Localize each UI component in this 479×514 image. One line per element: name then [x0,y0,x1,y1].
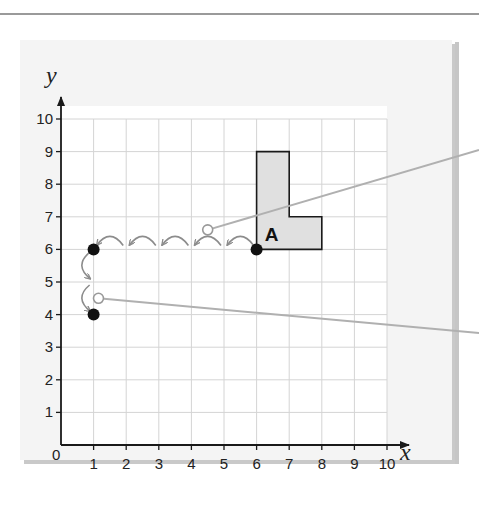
y-axis-ticks: 12345678910 [36,110,61,420]
origin-label: 0 [52,446,60,463]
y-tick-label: 2 [45,371,53,388]
plotted-point [251,243,263,255]
x-tick-label: 8 [318,455,326,472]
shape-a-label: A [265,224,279,245]
y-tick-label: 10 [36,110,53,127]
y-tick-label: 1 [45,403,53,420]
y-tick-label: 9 [45,143,53,160]
y-tick-label: 8 [45,175,53,192]
plotted-point [88,243,100,255]
x-tick-label: 9 [350,455,358,472]
y-axis-label: y [44,62,57,88]
callout-anchor-circle [203,225,213,235]
x-tick-label: 6 [252,455,260,472]
x-tick-label: 7 [285,455,293,472]
y-tick-label: 6 [45,240,53,257]
y-tick-label: 3 [45,338,53,355]
y-tick-label: 4 [45,306,53,323]
x-tick-label: 10 [379,455,396,472]
x-tick-label: 3 [155,455,163,472]
y-tick-label: 5 [45,273,53,290]
x-axis-label: x [399,439,411,465]
x-tick-label: 2 [122,455,130,472]
x-tick-label: 1 [89,455,97,472]
callout-anchor-circle [93,293,103,303]
x-axis-ticks: 12345678910 [89,445,395,472]
x-tick-label: 5 [220,455,228,472]
y-tick-label: 7 [45,208,53,225]
x-tick-label: 4 [187,455,195,472]
coordinate-grid-diagram: A 12345678910 12345678910 0 x y [0,0,479,514]
plotted-point [88,309,100,321]
